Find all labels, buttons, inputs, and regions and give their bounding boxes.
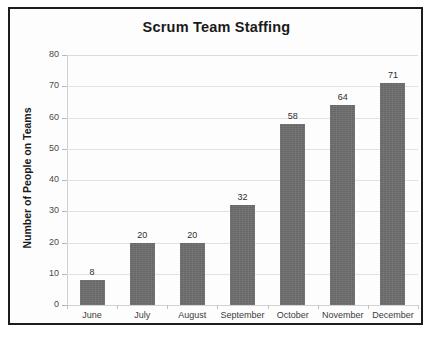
bar-value-label: 58 — [273, 111, 313, 121]
y-tick-mark — [62, 274, 67, 275]
chart-figure: Scrum Team Staffing Number of People on … — [0, 0, 433, 338]
y-tick-label: 50 — [33, 143, 59, 153]
bar-value-label: 20 — [122, 230, 162, 240]
y-tick-mark — [62, 243, 67, 244]
gridline — [67, 55, 418, 56]
bar[interactable] — [330, 105, 355, 305]
y-tick-label: 20 — [33, 237, 59, 247]
gridline — [67, 118, 418, 119]
y-tick-mark — [62, 118, 67, 119]
y-tick-mark — [62, 211, 67, 212]
bar-value-label: 71 — [373, 70, 413, 80]
x-tick-mark — [67, 305, 68, 309]
bar[interactable] — [130, 243, 155, 306]
x-tick-mark — [167, 305, 168, 309]
gridline — [67, 149, 418, 150]
bar-value-label: 8 — [72, 267, 112, 277]
chart-title: Scrum Team Staffing — [0, 19, 433, 35]
x-tick-mark — [368, 305, 369, 309]
bar[interactable] — [380, 83, 405, 305]
y-tick-label: 10 — [33, 268, 59, 278]
y-tick-label: 60 — [33, 112, 59, 122]
x-tick-mark — [318, 305, 319, 309]
y-axis-title: Number of People on Teams — [21, 78, 33, 278]
gridline — [67, 86, 418, 87]
y-tick-label: 0 — [33, 299, 59, 309]
y-tick-mark — [62, 86, 67, 87]
y-tick-mark — [62, 55, 67, 56]
y-tick-label: 70 — [33, 80, 59, 90]
bar[interactable] — [230, 205, 255, 305]
y-tick-mark — [62, 149, 67, 150]
gridline — [67, 180, 418, 181]
y-tick-label: 30 — [33, 205, 59, 215]
y-tick-mark — [62, 180, 67, 181]
bar-value-label: 32 — [223, 192, 263, 202]
bar[interactable] — [80, 280, 105, 305]
x-tick-mark — [217, 305, 218, 309]
gridline — [67, 305, 418, 306]
bar[interactable] — [180, 243, 205, 306]
x-tick-mark — [117, 305, 118, 309]
plot-area — [67, 55, 418, 305]
y-tick-label: 80 — [33, 49, 59, 59]
bar-value-label: 20 — [172, 230, 212, 240]
bar[interactable] — [280, 124, 305, 305]
x-tick-label: December — [363, 310, 423, 320]
x-tick-mark — [268, 305, 269, 309]
bar-value-label: 64 — [323, 92, 363, 102]
x-tick-mark — [418, 305, 419, 309]
y-tick-label: 40 — [33, 174, 59, 184]
